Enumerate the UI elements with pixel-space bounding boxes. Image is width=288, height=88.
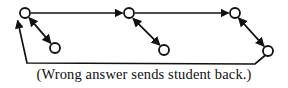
edge-branch-2 xyxy=(133,18,160,45)
edge-branch-3 xyxy=(239,18,264,46)
node-n5 xyxy=(230,8,240,18)
edge-branch-1 xyxy=(29,18,51,43)
node-n4 xyxy=(159,45,169,55)
diagram-caption: (Wrong answer sends student back.) xyxy=(0,66,288,83)
node-n3 xyxy=(124,8,134,18)
node-n2 xyxy=(50,43,60,53)
node-n1 xyxy=(20,8,30,18)
node-n6 xyxy=(263,46,273,56)
flow-diagram: (Wrong answer sends student back.) xyxy=(0,0,288,88)
edges-group xyxy=(18,13,265,64)
